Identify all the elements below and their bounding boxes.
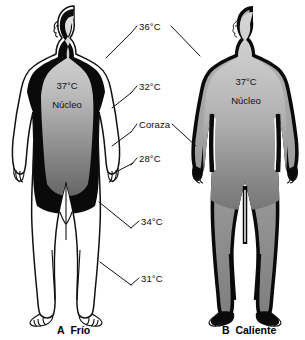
panel-a-caption-text: Frío <box>70 324 90 336</box>
panel-b-body <box>191 6 298 326</box>
caption-panel-b: B Caliente <box>222 324 276 336</box>
leader-coraza-left <box>131 124 137 132</box>
leader-34c-left <box>131 221 139 228</box>
core-fill-b <box>203 12 287 210</box>
caption-panel-a: A Frío <box>57 324 90 336</box>
core-label-b: Núcleo <box>216 95 276 106</box>
temp-label-32c: 32°C <box>139 81 161 92</box>
leader-34c-to-a <box>99 202 131 228</box>
leader-31c-to-a <box>100 262 131 285</box>
leader-32c-left <box>131 86 137 93</box>
leader-36c-left <box>131 26 137 33</box>
temp-label-34c: 34°C <box>141 216 163 227</box>
leader-32c-to-a <box>112 93 131 108</box>
core-label-a: Núcleo <box>37 99 97 110</box>
core-temp-a: 37°C <box>41 80 93 91</box>
panel-b-letter: B <box>222 324 230 336</box>
core-temp-b: 37°C <box>220 76 272 87</box>
leader-36c-to-a <box>106 33 131 58</box>
panel-a-body <box>12 6 119 326</box>
panel-b-caption-text: Caliente <box>235 324 276 336</box>
leader-36c-to-b <box>171 26 200 56</box>
leader-31c-left <box>131 278 139 285</box>
panel-a-letter: A <box>57 324 65 336</box>
thermal-body-diagram: 37°C Núcleo 37°C Núcleo 36°C 32°C Coraza… <box>0 0 305 340</box>
shell-label-coraza: Coraza <box>139 119 170 130</box>
temp-label-28c: 28°C <box>139 153 161 164</box>
temp-label-36c: 36°C <box>139 21 161 32</box>
core-region-b <box>203 12 287 210</box>
temp-label-31c: 31°C <box>141 273 163 284</box>
diagram-artwork <box>0 0 305 340</box>
